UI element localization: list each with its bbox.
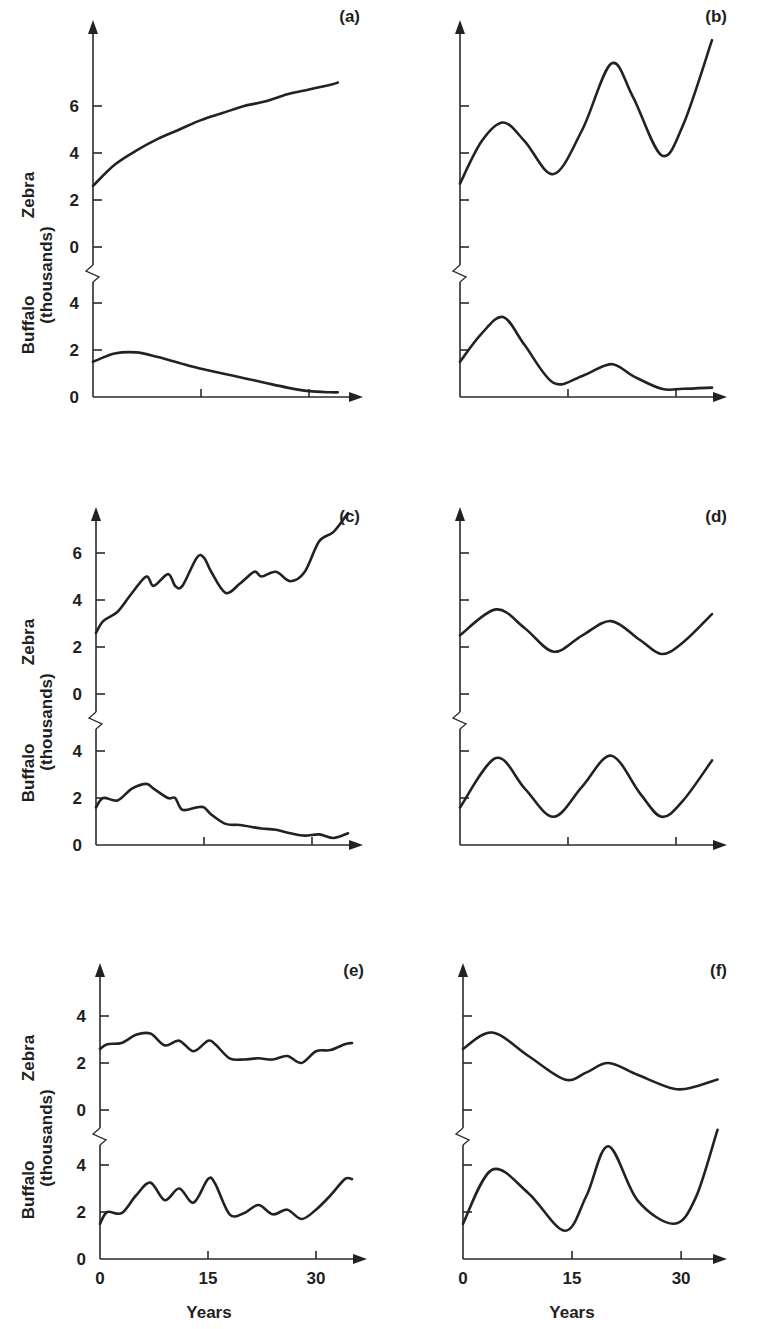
ylabel-units: (thousands): [37, 673, 56, 770]
panel-b: (b): [453, 7, 727, 402]
panel-a: 0246024(a): [70, 7, 363, 407]
ylabel-group-e: Zebra (thousands) Buffalo: [19, 1034, 56, 1219]
axis-break-icon: [453, 712, 466, 729]
xlabel-years-f: Years: [549, 1303, 594, 1322]
buffalo-population-curve: [93, 352, 338, 392]
x-axis-arrow-icon: [353, 1254, 367, 1264]
buffalo-population-curve: [460, 317, 712, 390]
panel-label: (d): [705, 507, 727, 526]
y-tick-label-zebra: 4: [73, 591, 83, 610]
x-axis-arrow-icon: [713, 840, 727, 850]
y-tick-label-zebra: 6: [73, 544, 82, 563]
axis-break-icon: [93, 1128, 106, 1145]
zebra-population-curve: [96, 513, 348, 633]
y-tick-label-zebra: 4: [77, 1007, 87, 1026]
y-tick-label-zebra: 2: [73, 638, 82, 657]
y-tick-label-buffalo: 2: [77, 1203, 86, 1222]
x-axis-arrow-icon: [349, 840, 363, 850]
ylabel-buffalo: Buffalo: [19, 1161, 38, 1220]
x-tick-label: 0: [95, 1269, 104, 1288]
y-tick-label-zebra: 6: [70, 97, 79, 116]
x-axis-arrow-icon: [349, 392, 363, 402]
population-figure: 0246024(a) (b) 0246024(c) (d) 0153002402…: [0, 0, 758, 1329]
y-tick-label-zebra: 2: [77, 1054, 86, 1073]
x-tick-label: 15: [563, 1269, 582, 1288]
y-axis-arrow-icon: [91, 507, 101, 521]
axis-break-icon: [453, 265, 466, 282]
zebra-population-curve: [460, 40, 712, 183]
y-axis-arrow-icon: [455, 507, 465, 521]
y-tick-label-buffalo: 4: [77, 1156, 87, 1175]
axis-break-icon: [456, 1128, 469, 1145]
panel-e: 01530024024(e): [77, 961, 367, 1288]
y-axis-arrow-icon: [88, 20, 98, 34]
ylabel-buffalo: Buffalo: [19, 296, 38, 355]
zebra-population-curve: [463, 1032, 718, 1089]
ylabel-buffalo: Buffalo: [19, 744, 38, 803]
y-axis-arrow-icon: [458, 963, 468, 977]
ylabel-units: (thousands): [37, 226, 56, 323]
x-tick-label: 15: [199, 1269, 218, 1288]
y-tick-label-zebra: 0: [70, 238, 79, 257]
panel-label: (c): [339, 507, 360, 526]
y-tick-label-zebra: 0: [77, 1101, 86, 1120]
buffalo-population-curve: [460, 756, 712, 817]
y-tick-label-buffalo: 0: [77, 1250, 86, 1269]
x-axis-arrow-icon: [713, 392, 727, 402]
panel-label: (f): [710, 961, 727, 980]
ylabel-group-a: Zebra (thousands) Buffalo: [19, 171, 56, 354]
x-tick-label: 30: [672, 1269, 691, 1288]
zebra-population-curve: [460, 609, 712, 654]
panel-d: (d): [453, 507, 727, 850]
x-tick-label: 0: [458, 1269, 467, 1288]
y-tick-label-zebra: 2: [70, 191, 79, 210]
ylabel-group-c: Zebra (thousands) Buffalo: [19, 618, 56, 802]
zebra-population-curve: [93, 83, 338, 186]
y-tick-label-buffalo: 2: [70, 341, 79, 360]
xlabel-years-e: Years: [186, 1303, 231, 1322]
y-tick-label-buffalo: 4: [70, 294, 80, 313]
buffalo-population-curve: [100, 1178, 352, 1224]
panel-label: (a): [339, 7, 360, 26]
y-tick-label-zebra: 0: [73, 685, 82, 704]
panel-label: (e): [343, 961, 364, 980]
buffalo-population-curve: [96, 784, 348, 838]
panel-c: 0246024(c): [73, 507, 363, 855]
y-tick-label-zebra: 4: [70, 144, 80, 163]
buffalo-population-curve: [463, 1130, 718, 1231]
y-tick-label-buffalo: 0: [73, 836, 82, 855]
x-axis-arrow-icon: [713, 1254, 727, 1264]
ylabel-units: (thousands): [37, 1089, 56, 1186]
y-tick-label-buffalo: 2: [73, 789, 82, 808]
x-tick-label: 30: [307, 1269, 326, 1288]
ylabel-zebra: Zebra: [19, 1034, 38, 1081]
panel-f: 01530(f): [456, 961, 727, 1288]
y-tick-label-buffalo: 0: [70, 388, 79, 407]
zebra-population-curve: [100, 1033, 352, 1063]
ylabel-zebra: Zebra: [19, 171, 38, 218]
axis-break-icon: [89, 712, 102, 729]
axis-break-icon: [86, 265, 99, 282]
panel-label: (b): [705, 7, 727, 26]
y-tick-label-buffalo: 4: [73, 742, 83, 761]
y-axis-arrow-icon: [455, 20, 465, 34]
y-axis-arrow-icon: [95, 963, 105, 977]
ylabel-zebra: Zebra: [19, 618, 38, 665]
